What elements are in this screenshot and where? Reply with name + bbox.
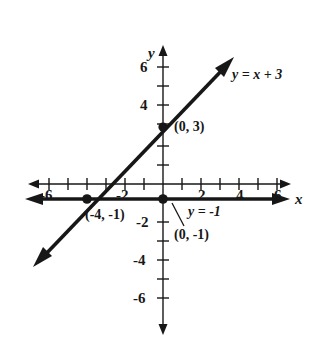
x-tick-label-6: 6 xyxy=(274,188,282,203)
x-tick-label-negative-6: -6 xyxy=(40,188,53,203)
line-equation-label: y = x + 3 xyxy=(232,68,282,82)
point-label-0-neg1: (0, -1) xyxy=(174,228,209,242)
point-marker-neg4-neg1 xyxy=(82,194,92,204)
x-tick-label-4: 4 xyxy=(236,188,244,203)
x-tick-label-2: 2 xyxy=(198,188,206,203)
y-tick-label-6: 6 xyxy=(140,60,148,75)
point-marker-0-neg1 xyxy=(158,194,168,204)
point-label-neg4-neg1: (-4, -1) xyxy=(85,208,125,222)
point-label-0-3: (0, 3) xyxy=(174,120,204,134)
horizontal-line-equation-label: y = -1 xyxy=(188,205,221,219)
coordinate-graph xyxy=(0,0,316,346)
y-tick-label-negative-2: -2 xyxy=(136,215,149,230)
x-axis-label: x xyxy=(295,192,303,207)
y-axis-label: y xyxy=(148,46,155,61)
y-tick-label-negative-6: -6 xyxy=(133,291,146,306)
x-tick-label-negative-2: -2 xyxy=(116,188,129,203)
y-tick-label-negative-4: -4 xyxy=(133,253,146,268)
y-tick-label-4: 4 xyxy=(140,98,148,113)
point-marker-0-3 xyxy=(158,122,167,131)
graph-background xyxy=(0,0,316,346)
